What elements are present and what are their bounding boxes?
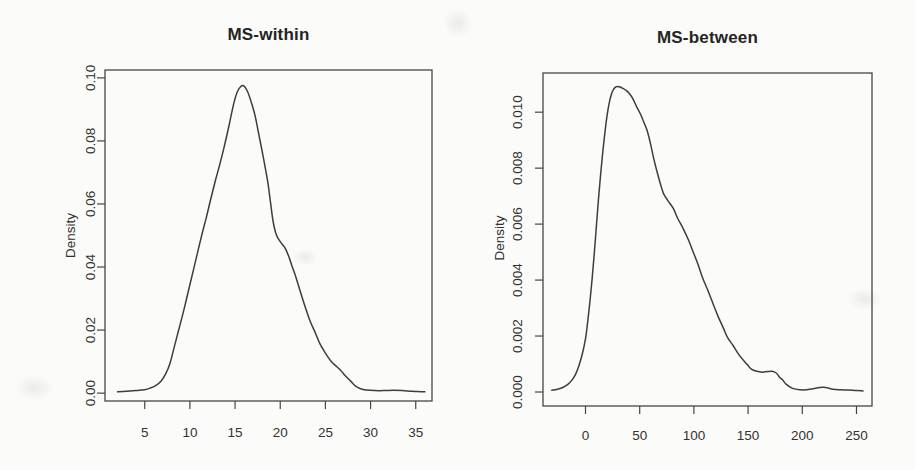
y-tick-label: 0.06: [83, 191, 98, 217]
density-curve: [552, 86, 863, 390]
plot-box: [105, 70, 432, 401]
y-tick-label: 0.10: [83, 65, 98, 91]
y-tick-label: 0.006: [510, 207, 525, 241]
density-figure: MS-within Density 51015202530350.000.020…: [0, 0, 915, 470]
y-axis-title: Density: [492, 215, 507, 260]
y-tick-label: 0.02: [83, 317, 98, 343]
y-tick-label: 0.010: [510, 95, 525, 129]
x-tick-label: 35: [408, 425, 423, 440]
x-tick-label: 10: [182, 425, 197, 440]
y-axis-title: Density: [63, 213, 78, 258]
x-tick-label: 150: [737, 428, 760, 443]
x-tick-label: 50: [632, 428, 647, 443]
y-tick-label: 0.002: [510, 319, 525, 353]
x-tick-label: 100: [683, 428, 706, 443]
y-tick-label: 0.004: [510, 263, 525, 297]
x-tick-label: 20: [273, 425, 288, 440]
figure-canvas: MS-within Density 51015202530350.000.020…: [0, 0, 915, 470]
x-tick-label: 25: [318, 425, 333, 440]
panel-ms-within: MS-within Density 51015202530350.000.020…: [63, 25, 432, 440]
x-tick-label: 250: [845, 428, 868, 443]
plot-box: [543, 73, 872, 406]
y-tick-label: 0.008: [510, 151, 525, 185]
panel-ms-between: MS-between Density 0501001502002500.0000…: [492, 28, 872, 443]
x-tick-label: 30: [363, 425, 378, 440]
y-tick-label: 0.000: [510, 375, 525, 409]
y-tick-label: 0.08: [83, 128, 98, 154]
y-tick-label: 0.00: [83, 380, 98, 406]
x-tick-label: 5: [141, 425, 149, 440]
density-curve: [118, 86, 425, 392]
y-tick-label: 0.04: [83, 253, 98, 280]
panel-title: MS-between: [657, 28, 758, 47]
x-tick-label: 200: [791, 428, 814, 443]
x-tick-label: 15: [228, 425, 243, 440]
x-tick-label: 0: [582, 428, 590, 443]
panel-title: MS-within: [227, 25, 309, 44]
